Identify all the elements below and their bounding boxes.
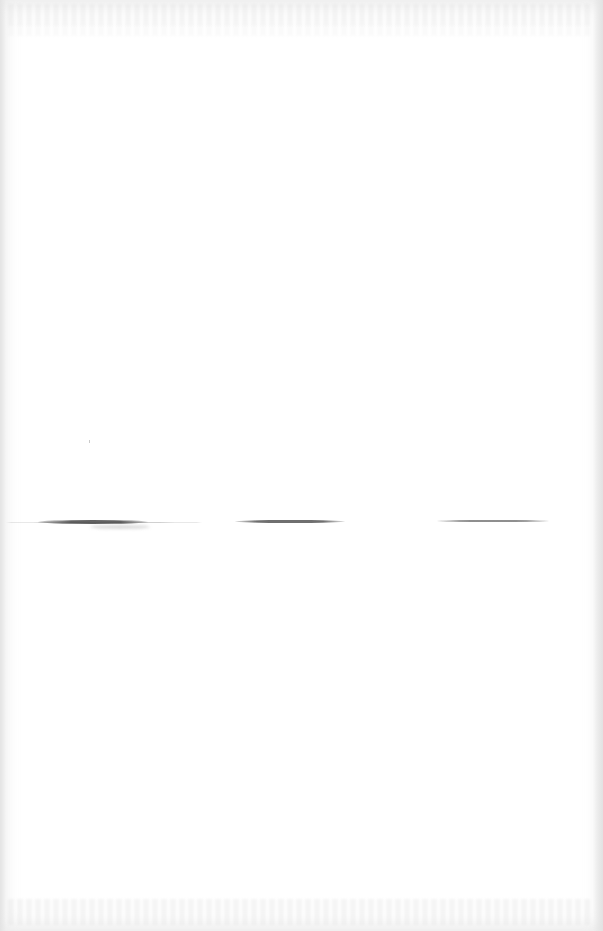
signature-line-3 <box>437 520 549 522</box>
scanned-page <box>0 0 603 931</box>
bleed-through-text-bottom <box>8 899 591 925</box>
bleed-through-text-top <box>8 4 591 26</box>
bleed-through-text-top-faint <box>8 26 591 36</box>
signature-line-1 <box>38 520 148 524</box>
paper-speck <box>89 440 90 443</box>
page-edge-shadow-right <box>593 0 603 931</box>
signature-line-2 <box>235 520 345 523</box>
page-edge-shadow-left <box>0 0 6 931</box>
signature-line-1-smudge <box>90 525 150 529</box>
